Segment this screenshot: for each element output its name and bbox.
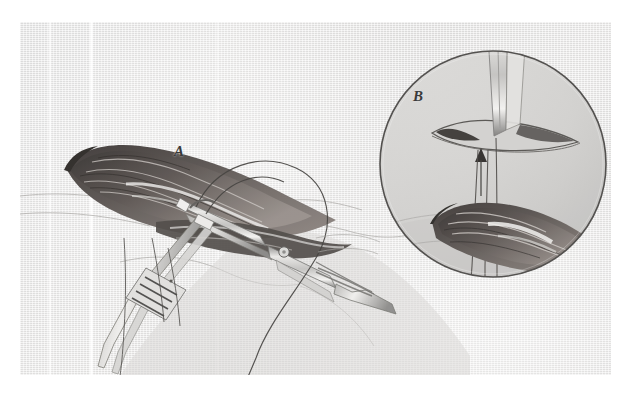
figure-label-b: B xyxy=(413,88,424,105)
illustration-artwork xyxy=(0,0,632,398)
surgical-illustration-figure: A B xyxy=(0,0,632,398)
figure-label-a: A xyxy=(174,143,185,160)
